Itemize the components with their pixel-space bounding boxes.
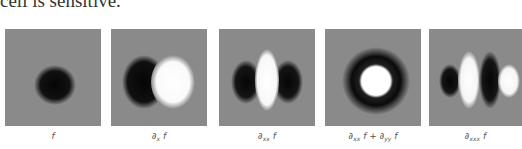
body-text-line: cell is sensitive. <box>0 0 121 12</box>
panel-label-dxxx-f: ∂xxx f <box>429 131 522 142</box>
panel-label-laplacian: ∂xx f + ∂yy f <box>325 131 421 142</box>
figure-panel-dxx-f <box>219 29 315 126</box>
first-derivative-image <box>111 29 207 126</box>
panel-label-dx-f: ∂x f <box>111 131 207 142</box>
figure-panel-f <box>5 29 101 126</box>
figure-panel-laplacian <box>325 29 421 126</box>
panel-label-dxx-f: ∂xx f <box>219 131 315 142</box>
gaussian-blob-image <box>5 29 101 126</box>
third-derivative-image <box>429 29 522 126</box>
panel-label-f: f <box>5 131 101 141</box>
figure-panel-dx-f <box>111 29 207 126</box>
laplacian-image <box>325 29 421 126</box>
figure-panel-dxxx-f <box>429 29 522 126</box>
second-derivative-image <box>219 29 315 126</box>
